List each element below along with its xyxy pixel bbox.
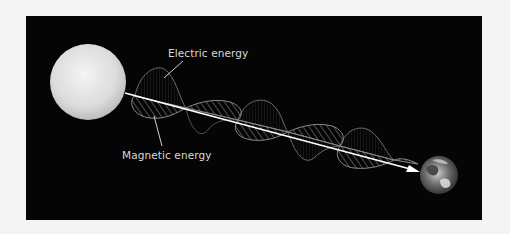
magnetic-energy-label: Magnetic energy xyxy=(122,149,212,161)
electric-energy-label: Electric energy xyxy=(168,47,248,59)
earth-icon xyxy=(420,156,458,194)
electric-leader-line xyxy=(164,61,183,78)
magnetic-leader-line xyxy=(154,116,162,146)
sun-icon xyxy=(50,44,126,120)
em-wave-diagram xyxy=(0,0,510,234)
